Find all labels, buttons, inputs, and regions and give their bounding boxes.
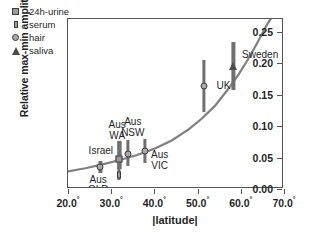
x-tick-label: 50.0°	[186, 196, 209, 209]
x-tick-mark	[68, 189, 69, 194]
y-tick-label: 0.05	[253, 152, 273, 164]
y-tick-label: 0.10	[253, 120, 273, 132]
legend-label-serum: serum	[29, 19, 55, 30]
y-tick-mark	[277, 189, 282, 190]
error-bar	[118, 141, 121, 169]
y-tick-label: 0.15	[253, 89, 273, 101]
data-point-marker	[116, 156, 123, 163]
x-tick-mark	[284, 189, 285, 194]
y-tick-label: 0.00	[253, 183, 273, 195]
chart-figure: 24h-urine serum hair saliva Relative max…	[0, 0, 312, 234]
data-point-marker	[97, 163, 104, 170]
data-point-label: Israel	[113, 186, 137, 187]
data-point-label: Aus VIC	[151, 150, 168, 171]
x-tick-mark	[154, 189, 155, 194]
data-point-marker	[125, 150, 132, 157]
data-point-label: Israel	[89, 146, 113, 157]
x-tick-mark	[241, 189, 242, 194]
data-point-label: Aus QLD	[88, 174, 109, 187]
data-point-label: Aus NSW	[121, 117, 144, 138]
x-tick-label: 20.0°	[56, 196, 79, 209]
plot-area: Aus QLDIsraelAus WAIsraelAus NSWAus VICU…	[68, 19, 282, 187]
y-tick-label: 0.25	[253, 26, 273, 38]
x-tick-mark	[198, 189, 199, 194]
y-tick-mark	[277, 63, 282, 64]
y-tick-mark	[277, 32, 282, 33]
y-tick-mark	[277, 95, 282, 96]
data-point-marker	[229, 62, 237, 70]
data-point-marker	[117, 172, 121, 179]
x-tick-mark	[111, 189, 112, 194]
legend-label-saliva: saliva	[29, 45, 53, 56]
y-tick-mark	[277, 158, 282, 159]
legend-label-hair: hair	[29, 32, 45, 43]
y-tick-mark	[277, 126, 282, 127]
x-tick-label: 40.0°	[143, 196, 166, 209]
y-tick-label: 0.20	[253, 57, 273, 69]
legend-label-24h-urine: 24h-urine	[29, 6, 69, 17]
y-axis-title: Relative max-min amplitude	[18, 0, 30, 129]
plot-frame: Aus QLDIsraelAus WAIsraelAus NSWAus VICU…	[67, 18, 283, 188]
data-point-marker	[141, 148, 148, 155]
x-tick-label: 30.0°	[100, 196, 123, 209]
x-tick-label: 70.0°	[272, 196, 295, 209]
x-tick-label: 60.0°	[229, 196, 252, 209]
data-point-label: UK	[217, 81, 231, 92]
data-point-marker	[201, 83, 208, 90]
x-axis-title: |latitude|	[67, 214, 283, 226]
